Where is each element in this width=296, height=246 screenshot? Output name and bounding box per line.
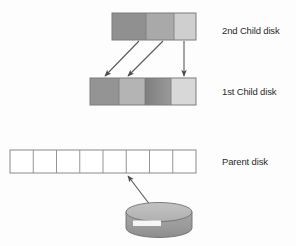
storage-cylinder-icon <box>126 203 192 238</box>
bar-first-child-disk <box>90 78 196 105</box>
label-parent-disk: Parent disk <box>222 157 268 167</box>
bar-parent-disk <box>10 150 196 173</box>
first-child-segment-0 <box>90 78 119 105</box>
cylinder-label-stripe <box>133 221 161 227</box>
differencing-disk-diagram <box>0 0 296 246</box>
first-child-segment-3 <box>171 78 196 105</box>
first-child-segment-2 <box>145 78 171 105</box>
second-child-segment-0 <box>112 13 146 40</box>
second-child-segment-1 <box>146 13 174 40</box>
first-child-segment-1 <box>119 78 145 105</box>
cylinder-top <box>126 203 192 222</box>
second-child-segment-2 <box>174 13 196 40</box>
label-second-child-disk: 2nd Child disk <box>222 26 280 36</box>
label-first-child-disk: 1st Child disk <box>222 87 276 97</box>
bar-second-child-disk <box>112 13 196 40</box>
